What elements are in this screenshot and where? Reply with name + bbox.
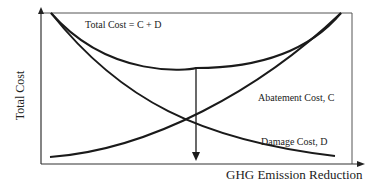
damage-cost-label: Damage Cost, D (261, 136, 327, 147)
y-axis-arrow-icon (38, 7, 44, 14)
total-cost-label: Total Cost = C + D (85, 19, 161, 30)
damage-cost-curve (51, 13, 335, 156)
y-axis-label: Total Cost (13, 66, 28, 126)
x-axis-label: GHG Emission Reduction (226, 167, 363, 183)
abatement-cost-label: Abatement Cost, C (258, 92, 334, 103)
optimum-arrow-icon (192, 152, 200, 161)
